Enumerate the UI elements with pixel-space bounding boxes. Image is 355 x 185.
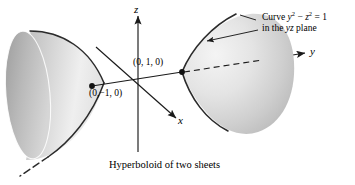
hyperboloid-figure: z y x (0, 1, 0) (0,−1, 0) Curve y2 − z2 …	[0, 0, 355, 185]
callout-prefix: Curve	[262, 12, 288, 22]
right-vertex-point	[179, 69, 185, 75]
figure-caption: Hyperboloid of two sheets	[109, 159, 220, 171]
right-vertex-label: (0, 1, 0)	[133, 57, 163, 68]
left-vertex-label: (0,−1, 0)	[89, 88, 122, 99]
y-axis-label: y	[310, 45, 315, 58]
callout-minus: −	[295, 12, 305, 22]
curve-callout-line1: Curve y2 − z2 = 1	[262, 12, 327, 23]
callout-plane-name: yz	[286, 23, 294, 33]
callout-equals: = 1	[312, 12, 327, 22]
curve-callout-line2: in the yz plane	[262, 23, 327, 34]
curve-callout: Curve y2 − z2 = 1 in the yz plane	[262, 12, 327, 34]
callout-line2-suffix: plane	[294, 23, 317, 33]
x-axis-label: x	[178, 114, 183, 127]
callout-line2-prefix: in the	[262, 23, 286, 33]
left-sheet	[1, 29, 104, 176]
left-sheet-lower-curve-hidden	[20, 157, 48, 176]
z-axis-label: z	[134, 3, 138, 16]
